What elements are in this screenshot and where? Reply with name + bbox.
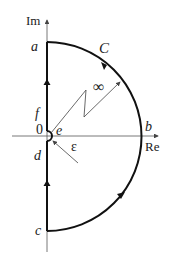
point-d-label: d <box>34 148 42 163</box>
imag-axis-label: Im <box>26 13 40 28</box>
point-f-label: f <box>35 106 41 121</box>
contour-diagram: Im Re a b c d e f 0 C ∞ ε <box>0 0 181 260</box>
arrow-up-icon <box>44 180 51 186</box>
contour-C-label: C <box>99 40 110 56</box>
epsilon-label: ε <box>71 139 77 154</box>
contour-segment-imag-lower <box>44 141 51 231</box>
point-c-label: c <box>35 223 42 238</box>
point-b-label: b <box>145 119 152 134</box>
real-axis-label: Re <box>145 139 160 154</box>
point-e-label: e <box>56 123 62 138</box>
point-a-label: a <box>31 39 38 54</box>
origin-label: 0 <box>36 122 43 137</box>
contour-segment-imag-upper <box>44 42 51 131</box>
infinity-label: ∞ <box>93 78 104 95</box>
arrow-up-icon <box>44 79 51 85</box>
